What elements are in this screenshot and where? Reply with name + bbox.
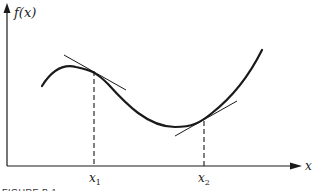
x-axis-label: x	[305, 159, 312, 173]
tangent-line-x1	[64, 55, 126, 90]
y-axis-arrowhead	[4, 3, 11, 13]
function-diagram: f(x) x x1 x2 FIGURE B.1	[0, 0, 317, 191]
x-axis-arrowhead	[290, 163, 302, 170]
tangent-line-x2	[175, 101, 237, 136]
point-label-x1: x1	[89, 171, 101, 187]
point-label-x2: x2	[198, 171, 210, 187]
y-axis-label: f(x)	[13, 5, 36, 20]
figure-caption: FIGURE B.1	[2, 187, 57, 191]
